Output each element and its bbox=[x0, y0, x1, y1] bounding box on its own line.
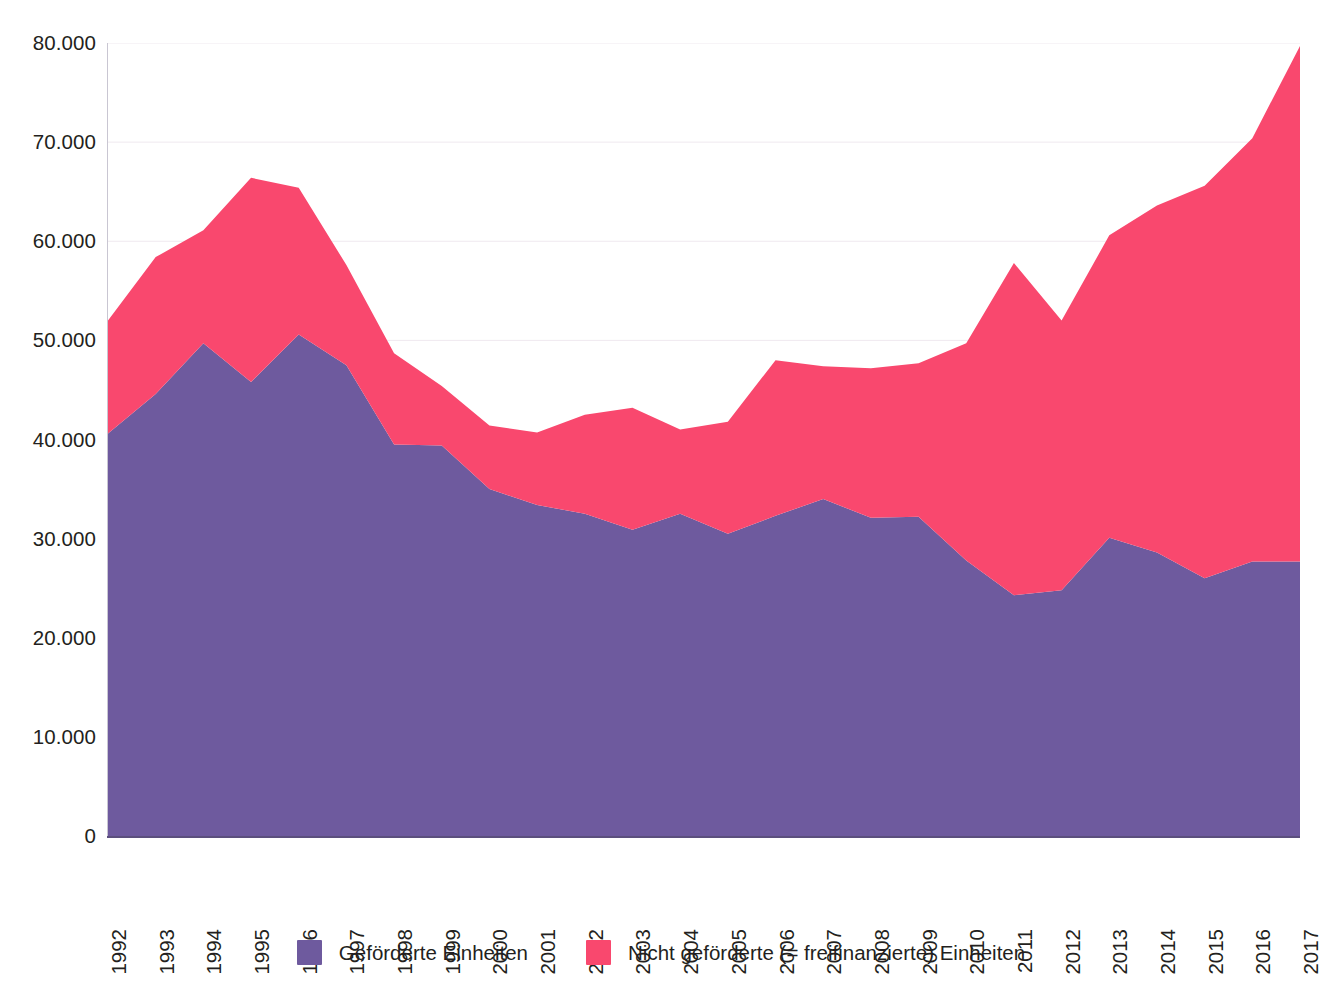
plot-area bbox=[108, 43, 1300, 836]
x-tick-2014: 2014 bbox=[1144, 843, 1170, 931]
x-tick-1998: 1998 bbox=[381, 843, 407, 931]
x-axis: 1992199319941995199619971998199920002001… bbox=[108, 843, 1300, 933]
x-tick-2017: 2017 bbox=[1287, 843, 1313, 931]
x-tick-2007: 2007 bbox=[810, 843, 836, 931]
x-tick-1993: 1993 bbox=[143, 843, 169, 931]
x-tick-2012: 2012 bbox=[1049, 843, 1075, 931]
x-tick-2000: 2000 bbox=[476, 843, 502, 931]
x-tick-1997: 1997 bbox=[333, 843, 359, 931]
x-tick-2013: 2013 bbox=[1096, 843, 1122, 931]
x-tick-2002: 2002 bbox=[572, 843, 598, 931]
x-tick-2005: 2005 bbox=[715, 843, 741, 931]
y-tick-label-60.000: 60.000 bbox=[10, 229, 96, 253]
legend-item-gefoerderte[interactable]: Geförderte Einheiten bbox=[297, 940, 528, 965]
x-tick-2011: 2011 bbox=[1001, 843, 1027, 931]
x-tick-2008: 2008 bbox=[858, 843, 884, 931]
x-tick-1996: 1996 bbox=[286, 843, 312, 931]
legend-label: Nicht geförderte (= freifinanzierte) Ein… bbox=[628, 941, 1025, 965]
legend-swatch-icon bbox=[297, 940, 322, 965]
x-tick-2015: 2015 bbox=[1192, 843, 1218, 931]
x-tick-2006: 2006 bbox=[763, 843, 789, 931]
y-tick-label-30.000: 30.000 bbox=[10, 527, 96, 551]
series-layer bbox=[108, 46, 1300, 836]
x-tick-2016: 2016 bbox=[1239, 843, 1265, 931]
y-tick-label-0: 0 bbox=[10, 824, 96, 848]
x-axis-line bbox=[107, 836, 1300, 838]
x-tick-1995: 1995 bbox=[238, 843, 264, 931]
x-tick-1992: 1992 bbox=[95, 843, 121, 931]
chart-legend: Geförderte EinheitenNicht geförderte (= … bbox=[0, 940, 1322, 965]
area-chart: 010.00020.00030.00040.00050.00060.00070.… bbox=[0, 0, 1322, 999]
y-tick-label-50.000: 50.000 bbox=[10, 328, 96, 352]
legend-label: Geförderte Einheiten bbox=[339, 941, 528, 965]
x-tick-2009: 2009 bbox=[906, 843, 932, 931]
x-tick-2010: 2010 bbox=[953, 843, 979, 931]
y-tick-label-20.000: 20.000 bbox=[10, 626, 96, 650]
x-tick-2001: 2001 bbox=[524, 843, 550, 931]
y-tick-label-40.000: 40.000 bbox=[10, 428, 96, 452]
y-tick-label-70.000: 70.000 bbox=[10, 130, 96, 154]
x-tick-1994: 1994 bbox=[190, 843, 216, 931]
legend-item-nicht-gefoerderte[interactable]: Nicht geförderte (= freifinanzierte) Ein… bbox=[586, 940, 1025, 965]
y-axis: 010.00020.00030.00040.00050.00060.00070.… bbox=[0, 0, 96, 999]
x-tick-2004: 2004 bbox=[667, 843, 693, 931]
y-tick-label-80.000: 80.000 bbox=[10, 31, 96, 55]
x-tick-1999: 1999 bbox=[429, 843, 455, 931]
y-tick-label-10.000: 10.000 bbox=[10, 725, 96, 749]
plot-svg bbox=[108, 43, 1300, 836]
legend-swatch-icon bbox=[586, 940, 611, 965]
x-tick-2003: 2003 bbox=[619, 843, 645, 931]
